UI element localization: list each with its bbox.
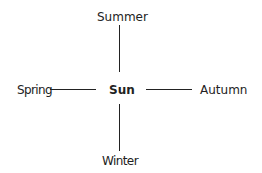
- connector-right: [146, 89, 192, 90]
- connector-top: [119, 25, 120, 72]
- center-sun: Sun: [109, 83, 135, 97]
- connector-bottom: [119, 104, 120, 151]
- node-autumn: Autumn: [200, 83, 247, 97]
- node-summer: Summer: [97, 10, 148, 24]
- node-spring: Spring: [17, 83, 52, 97]
- connector-left: [50, 89, 96, 90]
- node-winter: Winter: [102, 154, 138, 168]
